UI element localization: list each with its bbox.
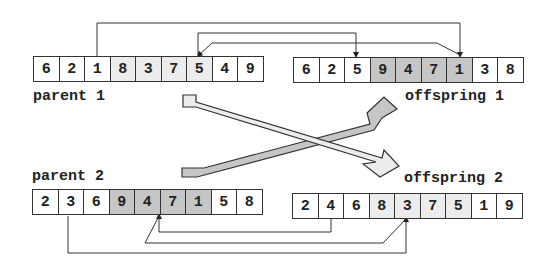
gene-cell: 6 xyxy=(294,58,320,82)
gene-cell: 6 xyxy=(84,190,110,214)
gene-cell: 7 xyxy=(421,194,447,218)
gene-cell: 5 xyxy=(345,58,371,82)
map-line-5 xyxy=(198,33,356,55)
gene-cell: 1 xyxy=(447,58,473,82)
gene-cell: 7 xyxy=(162,57,188,81)
gene-cell: 4 xyxy=(135,190,161,214)
gene-cell: 7 xyxy=(422,58,448,82)
gene-cell: 6 xyxy=(344,194,370,218)
gene-cell: 4 xyxy=(396,58,422,82)
map-line-3 xyxy=(68,216,406,253)
bottom-mapping-lines xyxy=(68,216,406,253)
gene-cell: 5 xyxy=(212,190,238,214)
gene-cell: 4 xyxy=(213,57,239,81)
gene-cell: 1 xyxy=(186,190,212,214)
gene-cell: 6 xyxy=(34,57,60,81)
offspring-1-chromosome: 6 2 5 9 4 7 1 3 8 xyxy=(293,57,524,83)
crossover-arrow-parent2-to-offspring1 xyxy=(182,97,397,177)
parent-1-label: parent 1 xyxy=(33,88,105,105)
top-mapping-lines xyxy=(97,23,460,56)
gene-cell: 7 xyxy=(161,190,187,214)
gene-cell: 9 xyxy=(110,190,136,214)
crossover-arrow-parent1-to-offspring2 xyxy=(183,95,399,177)
gene-cell: 2 xyxy=(293,194,319,218)
gene-cell: 3 xyxy=(59,190,85,214)
gene-cell: 4 xyxy=(319,194,345,218)
gene-cell: 8 xyxy=(370,194,396,218)
gene-cell: 8 xyxy=(111,57,137,81)
gene-cell: 5 xyxy=(446,194,472,218)
gene-cell: 2 xyxy=(320,58,346,82)
gene-cell: 8 xyxy=(498,58,523,82)
parent-2-label: parent 2 xyxy=(32,168,104,185)
gene-cell: 8 xyxy=(237,190,262,214)
gene-cell: 3 xyxy=(136,57,162,81)
gene-cell: 3 xyxy=(473,58,499,82)
gene-cell: 9 xyxy=(497,194,522,218)
map-line-1 xyxy=(97,23,460,56)
offspring-2-chromosome: 2 4 6 8 3 7 5 1 9 xyxy=(292,193,523,219)
gene-cell: 5 xyxy=(187,57,213,81)
offspring-2-label: offspring 2 xyxy=(404,170,503,187)
parent-2-chromosome: 2 3 6 9 4 7 1 5 8 xyxy=(32,189,263,215)
connector-overlay xyxy=(0,0,553,270)
gene-cell: 1 xyxy=(472,194,498,218)
parent-1-chromosome: 6 2 1 8 3 7 5 4 9 xyxy=(33,56,264,82)
gene-cell: 1 xyxy=(85,57,111,81)
offspring-1-label: offspring 1 xyxy=(405,88,504,105)
map-line-5-to-1 xyxy=(199,43,460,55)
gene-cell: 3 xyxy=(395,194,421,218)
gene-cell: 9 xyxy=(238,57,263,81)
gene-cell: 2 xyxy=(33,190,59,214)
map-line-4-to-3 xyxy=(145,216,406,243)
gene-cell: 9 xyxy=(371,58,397,82)
gene-cell: 2 xyxy=(60,57,86,81)
